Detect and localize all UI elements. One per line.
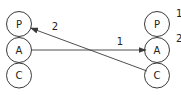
left-node-c: C (7, 63, 32, 88)
arrow-left-icon (31, 28, 148, 71)
edge-label: 1 (117, 36, 123, 47)
node-label: C (16, 70, 23, 81)
right-node-p: P (145, 12, 170, 37)
left-node-a: A (7, 38, 32, 63)
edge-2: 2 (31, 21, 148, 71)
edge-label: 2 (52, 21, 58, 32)
left-node-p: P (7, 12, 32, 37)
right-node-c: C (145, 63, 170, 88)
left-stack: P A C (7, 12, 32, 89)
node-label: P (16, 19, 22, 30)
right-stack: P A C (145, 12, 170, 89)
right-node-a: A (145, 38, 170, 63)
node-label: C (154, 70, 161, 81)
node-label: P (154, 19, 160, 30)
side-label: 2 (176, 33, 181, 44)
node-label: A (16, 45, 23, 56)
side-labels: 1 2 (176, 8, 181, 44)
side-label: 1 (176, 8, 181, 19)
edge-1: 1 (32, 36, 147, 50)
diagram-canvas: P A C P A C 1 2 1 (0, 0, 181, 95)
node-label: A (154, 45, 161, 56)
